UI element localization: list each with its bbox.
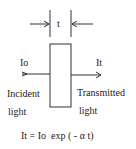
dimension-arrow-right: [72, 21, 93, 27]
incident-intensity-label: Io: [20, 58, 28, 68]
incident-light-label: light: [8, 107, 26, 117]
sample-slab: [50, 44, 71, 107]
dimension-arrow-left: [30, 21, 49, 27]
beer-lambert-equation: It = Io exp ( - α t): [21, 131, 94, 141]
absorption-diagram: [0, 0, 136, 149]
transmitted-light-label: light: [79, 106, 97, 116]
thickness-label: t: [57, 19, 60, 29]
transmitted-arrow: [71, 72, 101, 78]
transmitted-label: Transmitted: [77, 88, 125, 98]
transmitted-intensity-label: It: [96, 58, 102, 68]
incident-arrow: [22, 72, 50, 76]
incident-label: Incident: [7, 89, 40, 99]
